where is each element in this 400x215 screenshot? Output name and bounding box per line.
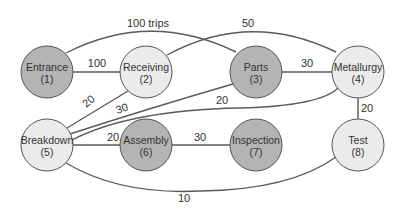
node-breakdown-name: Breakdown xyxy=(21,134,74,146)
diagram-canvas: 100 trips 50 100 30 20 30 20 20 30 20 10… xyxy=(0,0,400,215)
node-receiving-num: (2) xyxy=(140,73,153,85)
node-breakdown: Breakdown (5) xyxy=(21,119,74,171)
node-metallurgy-num: (4) xyxy=(352,73,365,85)
node-inspection-num: (7) xyxy=(250,146,263,158)
node-assembly: Assembly (6) xyxy=(120,119,172,171)
node-entrance: Entrance (1) xyxy=(21,46,73,98)
edge-label-receiving-metallurgy: 50 xyxy=(242,17,254,29)
edge-label-parts-metallurgy: 30 xyxy=(301,57,313,69)
node-parts: Parts (3) xyxy=(230,46,282,98)
node-receiving-name: Receiving xyxy=(123,61,169,73)
edge-label-receiving-breakdown: 20 xyxy=(80,92,97,109)
node-test-num: (8) xyxy=(352,146,365,158)
edge-label-metallurgy-test: 20 xyxy=(361,102,373,114)
edge-label-breakdown-metallurgy: 20 xyxy=(216,94,228,106)
node-test: Test (8) xyxy=(332,119,384,171)
edge-label-entrance-receiving: 100 xyxy=(88,57,106,69)
node-breakdown-num: (5) xyxy=(41,146,54,158)
edge-breakdown-test xyxy=(66,157,336,191)
edge-label-breakdown-test: 10 xyxy=(178,192,190,204)
node-parts-num: (3) xyxy=(250,73,263,85)
node-metallurgy-name: Metallurgy xyxy=(334,61,383,73)
edges xyxy=(66,31,358,191)
node-inspection-name: Inspection xyxy=(232,134,280,146)
node-test-name: Test xyxy=(348,134,367,146)
edge-label-assembly-inspection: 30 xyxy=(194,131,206,143)
node-assembly-name: Assembly xyxy=(123,134,169,146)
flow-diagram: 100 trips 50 100 30 20 30 20 20 30 20 10… xyxy=(0,0,400,215)
node-inspection: Inspection (7) xyxy=(230,119,282,171)
edge-label-entrance-parts: 100 trips xyxy=(127,17,170,29)
node-assembly-num: (6) xyxy=(140,146,153,158)
node-receiving: Receiving (2) xyxy=(120,46,172,98)
node-metallurgy: Metallurgy (4) xyxy=(332,46,384,98)
node-parts-name: Parts xyxy=(244,61,269,73)
node-entrance-name: Entrance xyxy=(26,61,68,73)
edge-label-breakdown-assembly: 20 xyxy=(107,131,119,143)
node-entrance-num: (1) xyxy=(41,73,54,85)
edge-labels: 100 trips 50 100 30 20 30 20 20 30 20 10 xyxy=(80,17,373,204)
edge-label-breakdown-parts: 30 xyxy=(114,101,129,116)
